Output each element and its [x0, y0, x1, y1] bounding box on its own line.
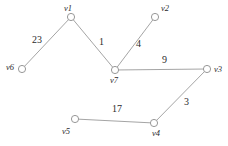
node-label-v6: v6 [6, 63, 14, 72]
graph-node-v7 [111, 66, 118, 73]
graph-node-v6 [18, 65, 25, 72]
edge-weight-label-v5-v4: 17 [112, 104, 122, 114]
graph-node-v4 [150, 119, 157, 126]
node-label-v5: v5 [62, 127, 70, 136]
graph-node-v1 [67, 13, 74, 20]
graph-diagram: 23149317v1v2v3v4v5v6v7 [0, 0, 228, 146]
graph-edge-v7-v2 [117, 20, 153, 67]
edge-weight-label-v3-v4: 3 [184, 97, 189, 107]
graph-edge-v3-v4 [157, 72, 205, 121]
graph-edge-v1-v7 [73, 20, 112, 67]
graph-node-v3 [203, 65, 210, 72]
graph-node-v2 [151, 13, 158, 20]
edge-weight-label-v6-v1: 23 [32, 35, 42, 45]
edge-weight-label-v1-v7: 1 [99, 37, 104, 47]
graph-canvas [0, 0, 228, 146]
node-label-v4: v4 [152, 129, 160, 138]
node-label-v3: v3 [214, 65, 222, 74]
edge-weight-label-v7-v2: 4 [136, 39, 141, 49]
node-label-v2: v2 [161, 4, 169, 13]
graph-edge-v7-v3 [119, 69, 204, 70]
node-label-v7: v7 [110, 76, 118, 85]
node-label-v1: v1 [64, 4, 72, 13]
graph-node-v5 [71, 115, 78, 122]
graph-edge-v5-v4 [79, 119, 151, 123]
edge-weight-label-v7-v3: 9 [162, 55, 167, 65]
